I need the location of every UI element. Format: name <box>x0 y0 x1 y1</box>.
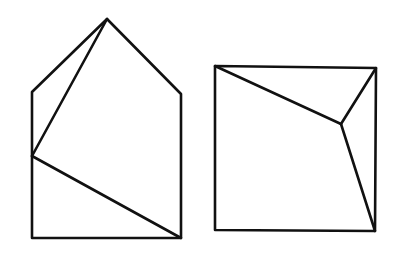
square-outline <box>215 66 376 231</box>
figure-square <box>215 66 376 231</box>
square-segment-2 <box>341 124 375 231</box>
pentagon-house-outline <box>32 19 181 238</box>
figure-pentagon-house <box>32 19 181 238</box>
pentagon-house-segment-1 <box>32 156 181 238</box>
square-segment-0 <box>215 66 341 124</box>
pentagon-house-segment-0 <box>32 19 107 156</box>
square-segment-1 <box>341 68 376 124</box>
diagram-canvas <box>0 0 396 261</box>
